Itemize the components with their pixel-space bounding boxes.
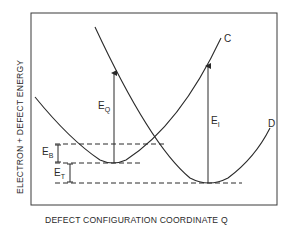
et-label: ET [54,167,66,180]
curve-c-label: C [224,33,231,44]
x-axis-label: DEFECT CONFIGURATION COORDINATE Q [45,215,228,225]
eb-label: EB [42,146,54,159]
curve-d-label: D [268,118,275,129]
eb-bracket [55,145,61,162]
configuration-coordinate-diagram: EQ EI EB ET C D ELECTRON + DEFECT ENERGY… [0,0,291,229]
plot-frame [31,13,277,205]
y-axis-label: ELECTRON + DEFECT ENERGY [15,60,25,194]
ei-label: EI [211,115,220,128]
eq-label: EQ [98,100,111,114]
et-bracket [67,164,73,182]
